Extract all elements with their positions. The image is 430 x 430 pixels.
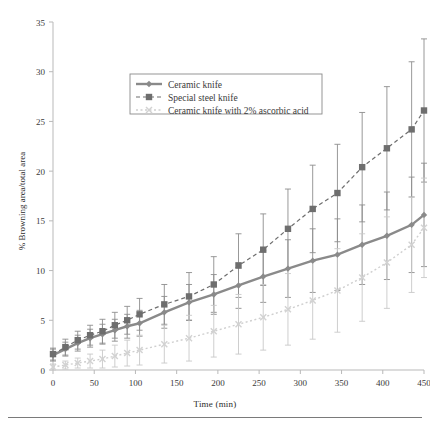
y-tick-label: 15	[36, 216, 46, 226]
marker-square	[384, 145, 390, 151]
marker-diamond	[186, 299, 192, 305]
marker-square	[408, 126, 414, 132]
figure-bottom-rule	[8, 417, 422, 418]
marker-square	[136, 311, 142, 317]
marker-square	[62, 344, 68, 350]
marker-diamond	[285, 265, 291, 271]
y-tick-label: 5	[41, 316, 46, 326]
marker-diamond	[235, 282, 241, 288]
marker-square	[50, 351, 56, 357]
marker-square	[235, 262, 241, 268]
marker-square	[260, 246, 266, 252]
marker-square	[75, 337, 81, 343]
marker-square	[124, 317, 130, 323]
x-tick-label: 200	[211, 378, 225, 388]
x-tick-label: 300	[294, 378, 308, 388]
x-tick-label: 350	[335, 378, 349, 388]
marker-diamond	[260, 273, 266, 279]
marker-diamond	[310, 257, 316, 263]
marker-square	[285, 226, 291, 232]
x-tick-label: 100	[129, 378, 143, 388]
marker-square	[359, 164, 365, 170]
marker-square	[421, 107, 427, 113]
x-tick-label: 400	[376, 378, 390, 388]
x-axis-title: Time (min)	[0, 399, 430, 409]
legend-marker-square	[146, 94, 152, 100]
marker-diamond	[359, 242, 365, 248]
legend-label-0: Ceramic knife	[168, 80, 222, 90]
figure-container: 0510152025303505010015020025030035040045…	[0, 0, 430, 430]
y-tick-label: 10	[36, 266, 46, 276]
marker-square	[87, 332, 93, 338]
marker-diamond	[334, 251, 340, 257]
marker-square	[99, 328, 105, 334]
y-tick-label: 35	[36, 18, 46, 28]
browning-line-chart: 0510152025303505010015020025030035040045…	[0, 0, 430, 430]
legend-label-2: Ceramic knife with 2% ascorbic acid	[168, 106, 309, 116]
marker-diamond	[211, 291, 217, 297]
y-tick-label: 25	[36, 117, 46, 127]
marker-square	[112, 322, 118, 328]
y-axis-title: % Browning area/total area	[17, 121, 27, 281]
legend: Ceramic knifeSpecial steel knifeCeramic …	[130, 74, 322, 116]
marker-diamond	[124, 323, 130, 329]
x-tick-label: 150	[170, 378, 184, 388]
marker-square	[334, 190, 340, 196]
y-tick-label: 30	[36, 67, 46, 77]
x-tick-label: 50	[90, 378, 100, 388]
marker-square	[161, 301, 167, 307]
marker-square	[310, 206, 316, 212]
y-tick-label: 20	[36, 167, 46, 177]
x-tick-label: 0	[51, 378, 56, 388]
x-tick-label: 250	[252, 378, 266, 388]
legend-label-1: Special steel knife	[168, 93, 238, 103]
marker-square	[186, 293, 192, 299]
y-tick-label: 0	[41, 366, 46, 376]
marker-square	[211, 281, 217, 287]
x-tick-label: 450	[417, 378, 430, 388]
